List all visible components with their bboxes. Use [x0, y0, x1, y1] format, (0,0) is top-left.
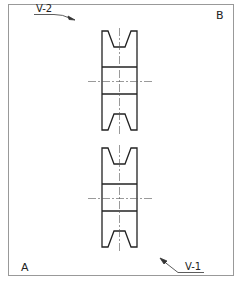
arrowhead-icon — [68, 16, 75, 20]
upper-pulley-centerlines — [88, 28, 152, 134]
lower-pulley-centerlines — [88, 145, 152, 251]
drawing-frame — [9, 5, 234, 276]
corner-label-b: B — [216, 10, 224, 21]
view-label-v2: V-2 — [36, 4, 52, 14]
technical-drawing — [0, 0, 241, 290]
corner-label-a: A — [21, 262, 29, 273]
view-label-v1: V-1 — [185, 262, 201, 272]
v2-leader — [34, 14, 75, 20]
